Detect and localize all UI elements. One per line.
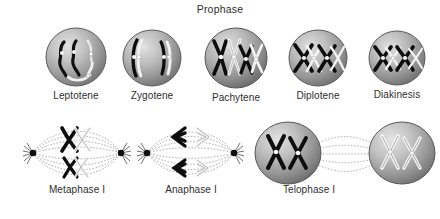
cell-sphere-icon — [38, 24, 114, 90]
interzonal-fibers — [316, 137, 374, 172]
migrating-homologs — [173, 128, 209, 176]
figure-title: Prophase — [0, 3, 440, 15]
spindle-pole-left — [23, 143, 36, 164]
stage-label-diplotene: Diplotene — [281, 90, 355, 101]
stage-label-telophase-i: Telophase I — [216, 184, 402, 195]
daughter-cells-icon — [252, 120, 438, 186]
stage-diakinesis: Diakinesis — [361, 27, 433, 99]
spindle-pole-left — [137, 143, 150, 164]
stage-label-leptotene: Leptotene — [38, 90, 114, 101]
stage-label-metaphase-i: Metaphase I — [22, 184, 132, 195]
spindle-pole-right — [118, 143, 131, 164]
spindle-icon — [22, 122, 132, 184]
spindle-icon — [137, 122, 245, 184]
spindle-fibers — [33, 131, 121, 175]
stage-telophase-i: Telophase I — [252, 120, 438, 194]
cell-sphere-icon — [361, 27, 433, 89]
stage-label-pachytene: Pachytene — [196, 92, 276, 103]
stage-pachytene: Pachytene — [196, 24, 276, 102]
aligned-bivalents — [62, 128, 90, 177]
stage-zygotene: Zygotene — [115, 26, 189, 100]
stage-label-zygotene: Zygotene — [115, 90, 189, 101]
stage-label-diakinesis: Diakinesis — [361, 89, 433, 100]
cell-sphere-icon — [115, 26, 189, 90]
stage-metaphase-i: Metaphase I — [22, 122, 132, 194]
stage-leptotene: Leptotene — [38, 24, 114, 100]
cell-sphere-icon — [196, 24, 276, 92]
cell-sphere-icon — [281, 26, 355, 90]
spindle-pole-right — [231, 143, 244, 164]
daughter-cell-left — [255, 122, 321, 184]
stage-diplotene: Diplotene — [281, 26, 355, 100]
spindle-fibers — [147, 132, 234, 174]
daughter-cell-right — [369, 122, 435, 184]
meiosis-diagram: Prophase — [0, 0, 440, 219]
